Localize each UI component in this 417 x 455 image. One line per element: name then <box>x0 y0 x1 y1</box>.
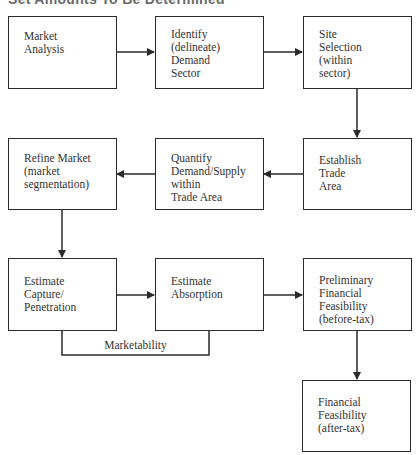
box-label: Estimate Capture/ Penetration <box>24 275 76 314</box>
box-label: Market Analysis <box>24 30 64 56</box>
box-financial-feasibility: Financial Feasibility (after-tax) <box>302 380 411 452</box>
box-refine-market: Refine Market (market segmentation) <box>8 138 117 210</box>
box-label: Estimate Absorption <box>171 275 223 301</box>
box-label: Site Selection (within sector) <box>319 28 362 80</box>
box-quantify-demand-supply: Quantify Demand/Supply within Trade Area <box>155 138 264 210</box>
box-label: Identify (delineate) Demand Sector <box>171 28 220 80</box>
box-site-selection: Site Selection (within sector) <box>303 16 412 89</box>
box-label: Refine Market (market segmentation) <box>24 152 91 191</box>
marketability-label: Marketability <box>62 339 209 351</box>
box-estimate-capture: Estimate Capture/ Penetration <box>8 258 117 331</box>
box-establish-trade-area: Establish Trade Area <box>303 138 412 210</box>
box-label: Quantify Demand/Supply within Trade Area <box>171 152 246 204</box>
box-label: Financial Feasibility (after-tax) <box>318 396 367 435</box>
box-estimate-absorption: Estimate Absorption <box>155 258 264 331</box>
box-label: Preliminary Financial Feasibility (befor… <box>319 274 374 326</box>
box-preliminary-financial-feasibility: Preliminary Financial Feasibility (befor… <box>303 258 412 331</box>
box-label: Establish Trade Area <box>319 154 361 193</box>
box-market-analysis: Market Analysis <box>8 16 117 89</box>
box-identify-demand-sector: Identify (delineate) Demand Sector <box>155 16 264 89</box>
